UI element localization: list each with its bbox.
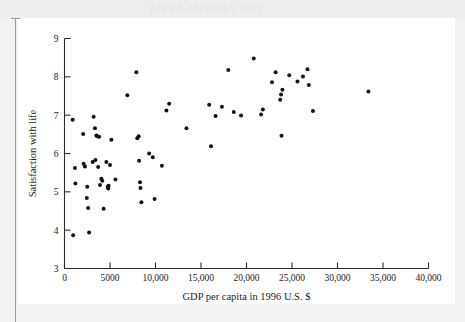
data-point bbox=[151, 155, 155, 159]
data-point bbox=[184, 126, 188, 130]
data-point bbox=[305, 67, 309, 71]
y-axis: 3456789 bbox=[54, 34, 71, 274]
x-tick-label: 40,000 bbox=[415, 273, 441, 283]
data-point bbox=[274, 70, 278, 74]
data-point bbox=[96, 165, 100, 169]
data-point bbox=[295, 79, 299, 83]
y-tick-label: 6 bbox=[54, 149, 59, 159]
y-tick-label: 9 bbox=[54, 34, 59, 44]
data-point bbox=[137, 159, 141, 163]
data-point bbox=[92, 115, 96, 119]
data-point bbox=[209, 144, 213, 148]
data-points-layer bbox=[71, 56, 371, 237]
y-tick-label: 7 bbox=[54, 111, 59, 121]
data-point bbox=[73, 166, 77, 170]
data-point bbox=[167, 102, 171, 106]
data-point bbox=[86, 206, 90, 210]
data-point bbox=[220, 105, 224, 109]
data-point bbox=[138, 186, 142, 190]
data-point bbox=[134, 70, 138, 74]
data-point bbox=[85, 196, 89, 200]
data-point bbox=[93, 126, 97, 130]
data-point bbox=[239, 114, 243, 118]
data-point bbox=[301, 74, 305, 78]
data-point bbox=[71, 233, 75, 237]
data-point bbox=[280, 134, 284, 138]
data-point bbox=[137, 134, 141, 138]
x-tick-label: 0 bbox=[62, 273, 67, 283]
data-point bbox=[138, 180, 142, 184]
data-point bbox=[73, 181, 77, 185]
data-point bbox=[113, 178, 117, 182]
data-point bbox=[366, 89, 370, 93]
data-point bbox=[252, 56, 256, 60]
x-tick-label: 25,000 bbox=[279, 273, 305, 283]
data-point bbox=[160, 164, 164, 168]
data-point bbox=[307, 83, 311, 87]
data-point bbox=[214, 114, 218, 118]
data-point bbox=[232, 110, 236, 114]
data-point bbox=[270, 80, 274, 84]
data-point bbox=[107, 184, 111, 188]
data-point bbox=[226, 68, 230, 72]
x-axis-title: GDP per capita in 1996 U.S. $ bbox=[183, 291, 311, 302]
data-point bbox=[125, 93, 129, 97]
x-tick-label: 30,000 bbox=[324, 273, 350, 283]
scatter-plot-figure: 3456789 0500010,00015,00020,00025,00030,… bbox=[0, 0, 465, 322]
y-tick-group: 3456789 bbox=[54, 34, 71, 274]
data-point bbox=[259, 112, 263, 116]
data-point bbox=[280, 88, 284, 92]
data-point bbox=[100, 179, 104, 183]
data-point bbox=[109, 138, 113, 142]
x-tick-label: 10,000 bbox=[142, 273, 168, 283]
data-point bbox=[261, 107, 265, 111]
data-point bbox=[81, 132, 85, 136]
data-point bbox=[147, 152, 151, 156]
data-point bbox=[93, 158, 97, 162]
data-point bbox=[104, 160, 108, 164]
x-tick-label: 15,000 bbox=[188, 273, 214, 283]
data-point bbox=[87, 230, 91, 234]
y-tick-label: 8 bbox=[54, 72, 59, 82]
y-axis-title: Satisfaction with life bbox=[27, 109, 38, 197]
data-point bbox=[71, 118, 75, 122]
data-point bbox=[98, 183, 102, 187]
data-point bbox=[164, 109, 168, 113]
y-tick-label: 4 bbox=[54, 226, 59, 236]
data-point bbox=[311, 109, 315, 113]
data-point bbox=[85, 185, 89, 189]
data-point bbox=[279, 92, 283, 96]
x-tick-label: 35,000 bbox=[370, 273, 396, 283]
data-point bbox=[97, 135, 101, 139]
data-point bbox=[287, 73, 291, 77]
x-axis: 0500010,00015,00020,00025,00030,00035,00… bbox=[62, 263, 442, 283]
data-point bbox=[102, 207, 106, 211]
x-tick-label: 5000 bbox=[101, 273, 120, 283]
data-point bbox=[139, 200, 143, 204]
x-tick-label: 20,000 bbox=[233, 273, 259, 283]
data-point bbox=[153, 197, 157, 201]
scatter-plot-svg: 3456789 0500010,00015,00020,00025,00030,… bbox=[0, 0, 465, 322]
x-tick-group: 0500010,00015,00020,00025,00030,00035,00… bbox=[62, 263, 442, 283]
data-point bbox=[207, 103, 211, 107]
data-point bbox=[278, 98, 282, 102]
data-point bbox=[108, 163, 112, 167]
data-point bbox=[83, 165, 87, 169]
y-tick-label: 3 bbox=[54, 264, 59, 274]
y-tick-label: 5 bbox=[54, 187, 59, 197]
